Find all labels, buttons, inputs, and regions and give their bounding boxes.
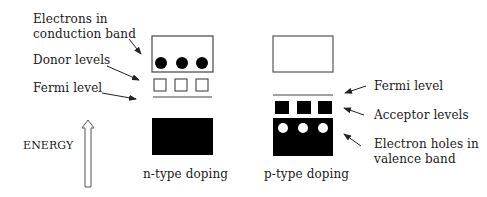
n-electron-3 xyxy=(196,57,208,69)
label-line-1: Electron holes in xyxy=(374,137,479,152)
label-donor-levels: Donor levels xyxy=(33,53,110,68)
label-energy: ENERGY xyxy=(23,138,73,153)
arrow-to-n-fermi xyxy=(102,93,136,99)
p-type-column xyxy=(273,36,333,156)
acceptor-level-2 xyxy=(297,101,311,114)
n-type-column xyxy=(152,36,213,155)
n-valence-band xyxy=(152,118,213,155)
label-line-1: Electrons in xyxy=(33,12,136,27)
arrow-to-p-fermi xyxy=(345,86,366,93)
acceptor-level-3 xyxy=(318,101,332,114)
label-acceptor-levels: Acceptor levels xyxy=(374,108,469,123)
label-electron-holes: Electron holes in valence band xyxy=(374,137,479,167)
label-line-2: valence band xyxy=(374,152,479,167)
arrow-to-donor xyxy=(107,66,139,80)
caption-n-type: n-type doping xyxy=(143,167,228,182)
arrow-to-holes xyxy=(344,134,361,146)
label-n-fermi-level: Fermi level xyxy=(33,81,102,96)
arrow-to-acceptor xyxy=(344,108,364,115)
p-conduction-band xyxy=(273,36,333,72)
n-electron-2 xyxy=(176,57,188,69)
caption-p-type: p-type doping xyxy=(264,167,349,182)
hole-2 xyxy=(298,123,308,133)
label-line-2: conduction band xyxy=(33,27,136,42)
donor-level-3 xyxy=(196,79,208,91)
donor-level-1 xyxy=(154,79,166,91)
label-p-fermi-level: Fermi level xyxy=(374,79,443,94)
donor-level-2 xyxy=(175,79,187,91)
hole-1 xyxy=(278,123,288,133)
hole-3 xyxy=(318,123,328,133)
label-electrons-conduction: Electrons in conduction band xyxy=(33,12,136,42)
n-electron-1 xyxy=(155,57,167,69)
acceptor-level-1 xyxy=(275,101,289,114)
energy-arrow-icon xyxy=(82,120,94,187)
